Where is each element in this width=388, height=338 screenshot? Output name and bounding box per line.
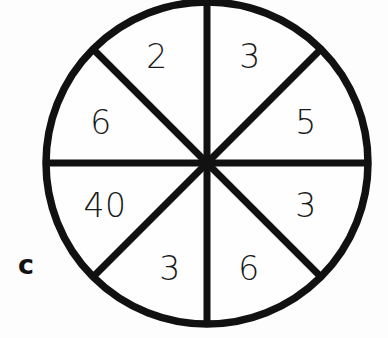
sector-value-bottom-left: 3	[159, 249, 181, 288]
sector-value-right-upper: 5	[295, 103, 317, 142]
sector-value-top-right: 3	[239, 37, 261, 76]
sector-value-left-lower: 40	[84, 186, 127, 225]
sector-value-bottom-right: 6	[238, 249, 260, 288]
part-label-c: c	[18, 249, 34, 280]
figure-container: 2 3 5 3 6 3 40 6 c	[0, 0, 388, 338]
sector-value-right-lower: 3	[295, 186, 317, 225]
divided-circle-diagram: 2 3 5 3 6 3 40 6 c	[0, 0, 388, 338]
sector-value-left-upper: 6	[90, 103, 112, 142]
sector-value-top-left: 2	[146, 37, 168, 76]
